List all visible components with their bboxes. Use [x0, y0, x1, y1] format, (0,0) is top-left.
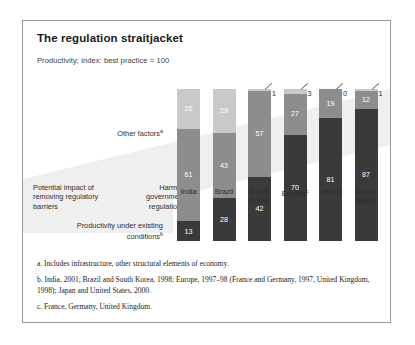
bar-column[interactable]: 1981	[319, 89, 342, 241]
label-productivity-under: Productivity under existing conditionsb	[41, 221, 163, 242]
bar-value-label: 81	[327, 176, 335, 183]
x-axis-label: UnitedStates	[346, 187, 386, 205]
x-axis-label: India	[169, 187, 209, 196]
footnote: c. France, Germany, United Kingdom.	[37, 302, 377, 313]
x-axis-label: Europec	[275, 187, 315, 199]
figure-panel: The regulation straitjacket Productivity…	[22, 20, 391, 323]
x-axis-label-line: Europec	[275, 187, 315, 199]
bar-value-label: 19	[327, 100, 335, 107]
x-axis-labels: IndiaBrazilSouthKoreaEuropecJapanUnitedS…	[173, 187, 387, 213]
x-axis-label-line: India	[169, 187, 209, 196]
x-axis-label-line: States	[346, 196, 386, 205]
footnote: a. Includes infrastructure, other struct…	[37, 259, 377, 270]
bar-segment[interactable]: 87	[355, 109, 378, 241]
x-axis-label-line: Korea	[240, 196, 280, 205]
footnote: b. India, 2001; Brazil and South Korea, …	[37, 275, 377, 296]
label-other-factors-sup: a	[160, 128, 163, 134]
x-axis-label-line: South	[240, 187, 280, 196]
bar-value-label: 87	[362, 171, 370, 178]
bar-segment[interactable]: 29	[213, 89, 236, 133]
bar-segment[interactable]: 12	[355, 91, 378, 109]
label-other-factors: Other factorsa	[41, 127, 163, 139]
bar-segment[interactable]: 26	[177, 89, 200, 129]
bar-value-label: 57	[256, 130, 264, 137]
label-productivity-text: Productivity under existing conditions	[77, 221, 163, 242]
bar-value-label: 61	[185, 171, 193, 178]
bar-column[interactable]: 294328	[213, 89, 236, 241]
bar-column[interactable]: 5742	[248, 89, 271, 241]
bar-value-label: 12	[362, 96, 370, 103]
bar-segment[interactable]: 19	[319, 89, 342, 118]
bar-value-label: 43	[220, 162, 228, 169]
bar-segment[interactable]: 57	[248, 91, 271, 178]
bar-value-label: 26	[185, 105, 193, 112]
bar-value-label: 28	[220, 216, 228, 223]
x-axis-label: Brazil	[204, 187, 244, 196]
bar-column[interactable]: 266113	[177, 89, 200, 241]
bar-value-label: 29	[220, 107, 228, 114]
bar-value-label: 13	[185, 228, 193, 235]
bar-callout-label: 1	[272, 89, 276, 98]
x-axis-label: SouthKorea	[240, 187, 280, 205]
bar-callout-label: 3	[308, 89, 312, 98]
footnotes: a. Includes infrastructure, other struct…	[37, 259, 377, 318]
x-axis-label: Japan	[311, 187, 351, 196]
figure-subtitle: Productivity; index: best practice = 100	[37, 56, 169, 65]
bar-callout-label: 1	[379, 89, 383, 98]
x-axis-label-line: United	[346, 187, 386, 196]
bar-segment[interactable]: 13	[177, 221, 200, 241]
x-axis-label-sup: c	[306, 188, 309, 194]
bar-column[interactable]: 1287	[355, 89, 378, 241]
page-title: The regulation straitjacket	[37, 32, 183, 44]
label-productivity-sup: b	[160, 231, 163, 237]
bar-segment[interactable]: 27	[284, 94, 307, 135]
bar-column[interactable]: 2770	[284, 89, 307, 241]
chart-plot-area: Other factorsa Potential impact of remov…	[23, 83, 390, 255]
bar-callout-label: 0	[343, 89, 347, 98]
bar-group: 26611329432857421277031981012871	[173, 89, 387, 241]
label-potential-impact: Potential impact of removing regulatory …	[33, 183, 125, 211]
x-axis-label-line: Brazil	[204, 187, 244, 196]
x-axis-label-line: Japan	[311, 187, 351, 196]
label-other-factors-text: Other factors	[117, 129, 160, 138]
bar-segment[interactable]: 81	[319, 118, 342, 241]
bar-value-label: 27	[291, 110, 299, 117]
